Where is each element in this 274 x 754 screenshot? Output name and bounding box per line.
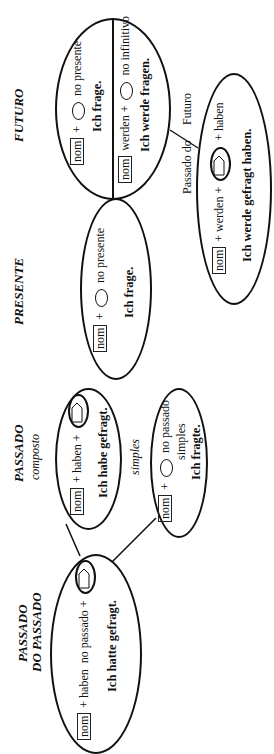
- nom-box: nom: [212, 247, 226, 274]
- heading-passado: PASSADO: [12, 424, 26, 482]
- haben-aux: + haben no passado +: [77, 600, 91, 707]
- futuro-row2-formula: nom werden + no infinitivo: [118, 16, 133, 183]
- label-simples: simples: [128, 439, 143, 475]
- participle-house-icon: [210, 147, 231, 181]
- heading-presente: PRESENTE: [12, 258, 26, 325]
- label-composto: composto: [28, 434, 43, 480]
- plus-sign: +: [158, 483, 172, 490]
- futuro-row2-suffix: no infinitivo: [118, 16, 132, 76]
- presente-formula: nom + no presente: [93, 228, 108, 352]
- plus-sign: +: [93, 313, 107, 320]
- pdp-example: Ich hatte gefragt.: [105, 600, 119, 692]
- presente-ellipse: [80, 198, 152, 380]
- futuro-row1-formula: nom + no presente: [70, 41, 85, 165]
- presente-suffix: no presente: [93, 228, 107, 283]
- participle-house-icon: [68, 394, 89, 428]
- heading-pdp-line2: DO PASSADO: [30, 592, 44, 672]
- nom-box: nom: [93, 325, 107, 352]
- nom-box: nom: [118, 156, 132, 183]
- nom-box: nom: [70, 138, 84, 165]
- simples-suffix2: simples: [174, 423, 188, 460]
- heading-futuro: FUTURO: [12, 89, 26, 142]
- composto-example: Ich habe gefragt.: [96, 407, 110, 498]
- passado-do-passado-ellipse: [50, 554, 142, 754]
- futuro-row1-example: Ich frage.: [90, 81, 104, 132]
- pdf-label-right: Futuro: [180, 93, 194, 125]
- simples-formula: nom + no passado: [158, 400, 173, 522]
- pdf-label-left: Passado do: [180, 140, 194, 194]
- heading-pdp-line1: PASSADO: [16, 592, 30, 672]
- simples-example: Ich fragte.: [189, 424, 203, 480]
- futuro-row2-example: Ich werde fragen.: [138, 58, 152, 152]
- pdf-formula: nom + werden + + haben: [210, 102, 231, 274]
- werden-aux: werden +: [118, 106, 132, 151]
- haben-suffix: + haben: [212, 102, 226, 140]
- futuro-row1-suffix: no presente: [70, 41, 84, 96]
- pdf-example: Ich werde gefragt haben.: [240, 129, 254, 262]
- nom-box: nom: [77, 713, 91, 740]
- futuro-divider: [112, 18, 114, 200]
- nom-box: nom: [70, 488, 84, 515]
- pdp-formula: nom + haben no passado +: [75, 557, 96, 740]
- plus-sign: +: [70, 126, 84, 133]
- composto-formula: nom + haben +: [68, 391, 89, 515]
- participle-house-icon: [75, 560, 96, 594]
- verb-oval-icon: [95, 289, 108, 307]
- nom-box: nom: [158, 495, 172, 522]
- verb-oval-icon: [160, 459, 173, 477]
- presente-example: Ich frage.: [122, 267, 136, 318]
- verb-oval-icon: [120, 82, 133, 100]
- passado-do-futuro-ellipse: [196, 73, 272, 305]
- haben-aux: + haben +: [70, 434, 84, 482]
- verb-oval-icon: [72, 102, 85, 120]
- heading-passado-do-passado: PASSADO DO PASSADO: [16, 592, 44, 672]
- simples-suffix: no passado: [158, 400, 172, 453]
- werden-aux: + werden +: [212, 187, 226, 242]
